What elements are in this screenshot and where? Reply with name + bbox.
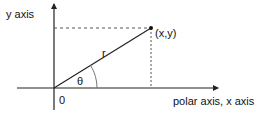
radius-label: r bbox=[102, 47, 106, 59]
x-axis-label: polar axis, x axis bbox=[173, 95, 255, 107]
polar-coordinate-diagram: y axis (x,y) r θ 0 polar axis, x axis bbox=[0, 0, 266, 114]
point-label: (x,y) bbox=[155, 27, 176, 39]
point-marker bbox=[149, 26, 153, 30]
origin-label: 0 bbox=[59, 94, 65, 106]
angle-arc bbox=[91, 65, 97, 88]
angle-label: θ bbox=[77, 75, 83, 87]
y-axis-label: y axis bbox=[6, 8, 35, 20]
